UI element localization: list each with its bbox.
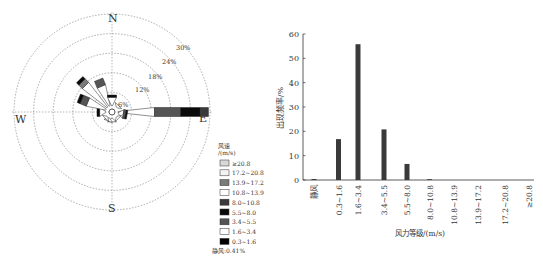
bar-2 [356,44,361,180]
y-tick-label: 50 [289,54,299,63]
y-tick-label: 0 [294,176,299,185]
y-tick-label: 60 [289,30,299,39]
rose-segment-n [108,95,117,97]
rose-segment-e [200,108,208,117]
y-tick-label: 10 [289,152,299,161]
ring-label: 30% [176,44,190,52]
legend-swatch [220,199,229,205]
ring-label: 12% [135,86,149,94]
compass-south: S [108,202,116,215]
y-axis-label: 出现频率/% [275,86,285,129]
bar-5 [427,179,432,180]
x-tick-label: 5.5~8.0 [403,185,412,215]
legend-swatch [220,209,229,215]
legend-swatch [220,180,229,186]
compass-west: W [15,113,27,126]
x-tick-label: 3.4~5.5 [380,185,389,215]
bar-3 [382,129,387,180]
legend-label: 8.0~10.8 [232,199,260,206]
x-tick-label: 17.2~20.8 [501,185,510,225]
bar-1 [336,139,341,180]
x-axis-label: 风力等级/(m/s) [395,228,445,238]
rose-segment-se [115,115,121,121]
compass-north: N [108,12,118,25]
calm-center [109,109,115,115]
rose-segment-e [155,108,181,117]
legend-label: 17.2~20.8 [232,169,264,176]
ring-label: 18% [148,73,162,81]
legend-label: 1.6~3.4 [232,228,256,235]
bar-4 [405,164,410,180]
ring-label: 24% [162,58,176,66]
legend-label: 13.9~17.2 [232,179,264,186]
x-tick-label: ≥20.8 [525,185,534,208]
calm-label: 静风:0.41% [212,247,245,255]
x-tick-label: 10.8~13.9 [450,185,459,225]
y-tick-label: 40 [289,79,299,88]
legend-swatch [220,170,229,176]
legend-label: 3.4~5.5 [232,218,256,225]
legend-label: 5.5~8.0 [232,209,256,216]
legend-swatch [220,189,229,195]
y-tick-label: 30 [289,103,299,112]
y-tick-label: 20 [289,127,299,136]
legend-label: 0.3~1.6 [232,238,256,245]
bar-0 [312,179,317,180]
wind-frequency-bar-chart: 0102030405060出现频率/%静风0.3~1.61.6~3.43.4~5… [270,0,543,264]
rose-segment-e [181,108,201,117]
legend-label: ≥20.8 [232,160,251,167]
x-tick-label: 0.3~1.6 [335,185,344,215]
x-tick-label: 静风 [309,184,319,199]
legend-label: 10.8~13.9 [232,189,264,196]
x-tick-label: 1.6~3.4 [354,185,363,215]
legend-unit: /(m/s) [218,149,236,156]
rose-segment-sw [102,115,108,121]
x-tick-label: 8.0~10.8 [426,185,435,220]
legend-swatch [220,160,229,166]
legend-swatch [220,238,229,244]
x-tick-label: 13.9~17.2 [474,185,483,225]
legend-swatch [220,219,229,225]
wind-rose-chart: 6%12%18%24%30%NESW风速/(m/s)≥20.817.2~20.8… [0,0,270,264]
legend-swatch [220,229,229,235]
